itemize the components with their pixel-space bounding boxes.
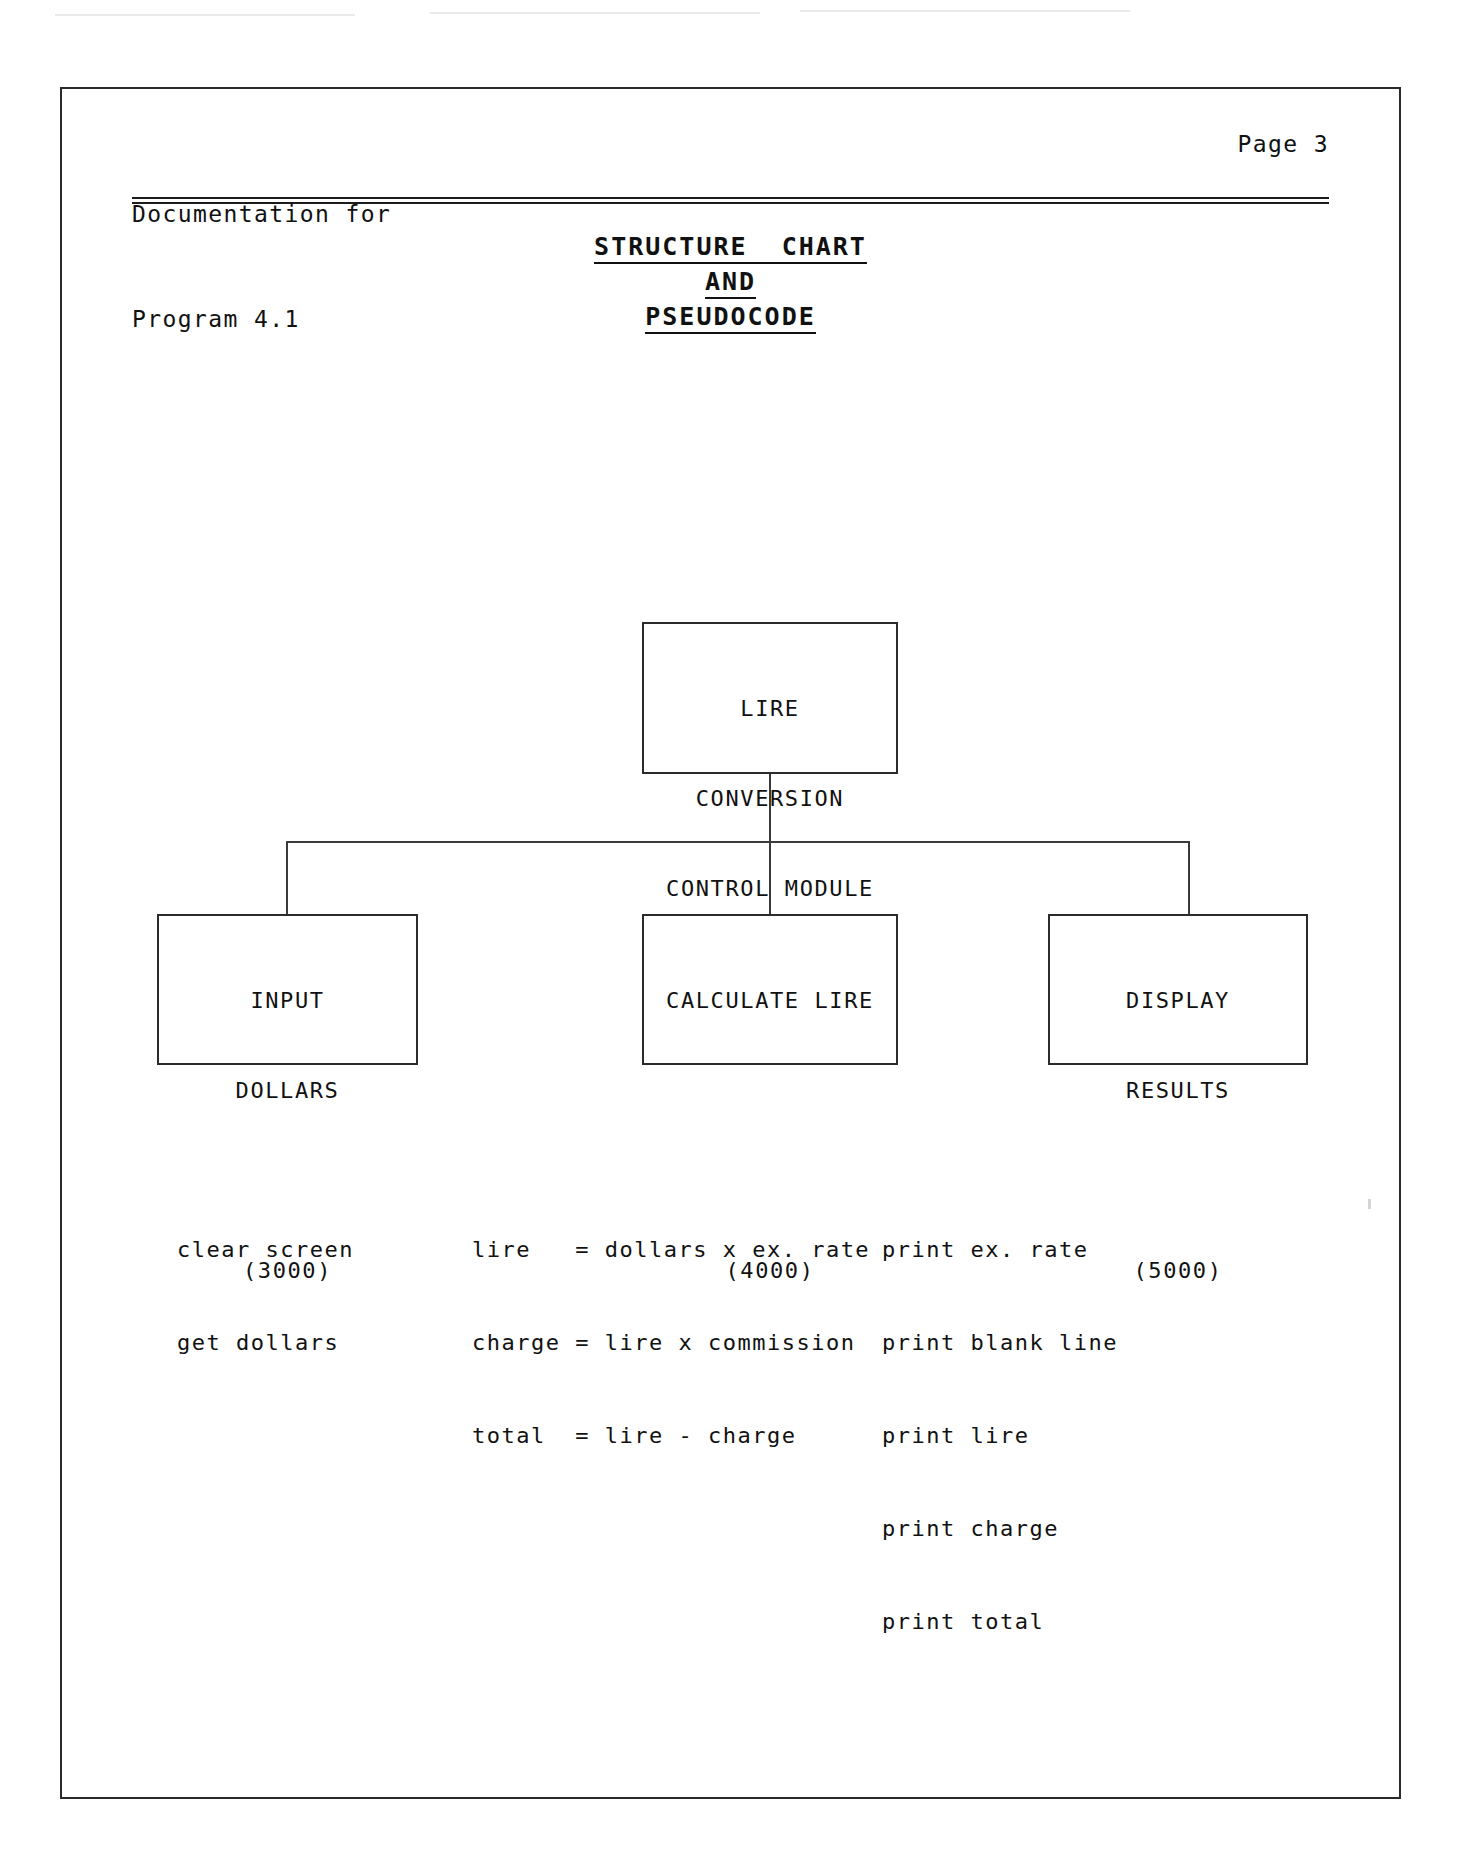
document-page: Documentation for Program 4.1 Page 3 STR…	[60, 87, 1401, 1799]
pseudocode-display-results: print ex. rate print blank line print li…	[882, 1172, 1118, 1699]
structure-chart: LIRE CONVERSION CONTROL MODULE (2000) IN…	[62, 89, 1399, 1797]
chart-node-display-line-2: RESULTS	[1050, 1076, 1306, 1106]
chart-node-root-line-3: CONTROL MODULE	[644, 874, 896, 904]
chart-node-display-results: DISPLAY RESULTS (5000)	[1048, 914, 1308, 1065]
pseudocode-display-line-3: print lire	[882, 1420, 1118, 1451]
chart-node-root-line-1: LIRE	[644, 694, 896, 724]
chart-node-root-line-2: CONVERSION	[644, 784, 896, 814]
pseudocode-calculate-line-3: total = lire - charge	[472, 1420, 870, 1451]
pseudocode-input-line-1: clear screen	[177, 1234, 354, 1265]
chart-node-input-dollars: INPUT DOLLARS (3000)	[157, 914, 418, 1065]
chart-node-calculate-line-1: CALCULATE LIRE	[644, 986, 896, 1016]
pseudocode-input-dollars: clear screen get dollars	[177, 1172, 354, 1420]
scan-artifact-line-left	[55, 14, 355, 16]
chart-node-display-line-1: DISPLAY	[1050, 986, 1306, 1016]
chart-node-calculate-line-2	[644, 1076, 896, 1106]
chart-node-input-line-1: INPUT	[159, 986, 416, 1016]
pseudocode-calculate-line-1: lire = dollars x ex. rate	[472, 1234, 870, 1265]
scan-artifact-dot	[1368, 1199, 1371, 1209]
chart-node-calculate-lire: CALCULATE LIRE (4000)	[642, 914, 898, 1065]
chart-node-input-line-2: DOLLARS	[159, 1076, 416, 1106]
scan-artifact-line-center	[430, 12, 760, 14]
pseudocode-input-line-2: get dollars	[177, 1327, 354, 1358]
pseudocode-display-line-5: print total	[882, 1606, 1118, 1637]
pseudocode-calculate-lire: lire = dollars x ex. rate charge = lire …	[472, 1172, 870, 1513]
pseudocode-display-line-4: print charge	[882, 1513, 1118, 1544]
connector-drop-display	[1188, 841, 1190, 914]
pseudocode-display-line-1: print ex. rate	[882, 1234, 1118, 1265]
scan-artifact-text	[880, 0, 1140, 20]
connector-drop-input	[286, 841, 288, 914]
chart-node-lire-conversion-control-module: LIRE CONVERSION CONTROL MODULE (2000)	[642, 622, 898, 774]
pseudocode-calculate-line-2: charge = lire x commission	[472, 1327, 870, 1358]
pseudocode-display-line-2: print blank line	[882, 1327, 1118, 1358]
